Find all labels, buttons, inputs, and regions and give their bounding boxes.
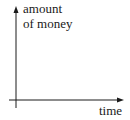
y-axis-label-line-2: of money: [23, 17, 72, 30]
x-axis: [9, 98, 124, 103]
x-axis-arrow-icon: [117, 98, 124, 103]
y-axis-arrow-icon: [14, 6, 19, 13]
y-axis: [14, 6, 19, 108]
x-axis-label: time: [99, 104, 122, 117]
y-axis-label-line-1: amount: [23, 2, 62, 15]
